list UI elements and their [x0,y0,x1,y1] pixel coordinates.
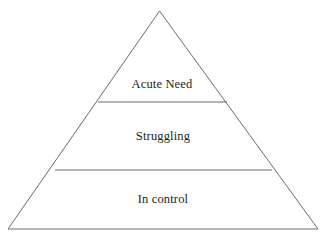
tier-label-struggling: Struggling [136,129,191,143]
pyramid-svg-canvas: Acute Need Struggling In control [0,0,330,246]
pyramid-diagram: Acute Need Struggling In control [0,0,330,246]
tier-label-in-control: In control [138,192,189,206]
tier-label-acute-need: Acute Need [132,77,193,91]
